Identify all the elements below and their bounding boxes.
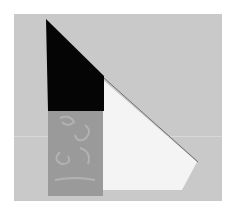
black-trapezoid xyxy=(46,19,104,111)
shapes-scene xyxy=(0,0,230,210)
gray-swirl-rectangle xyxy=(48,111,103,196)
white-pentagon xyxy=(103,80,197,190)
